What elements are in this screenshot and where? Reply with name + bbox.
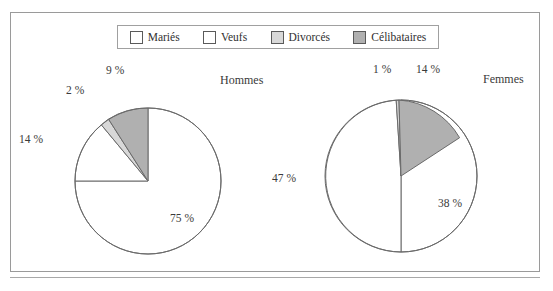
pie-slice-femmes-veufs[interactable]: [326, 100, 401, 252]
pie-title-hommes: Hommes: [220, 74, 263, 86]
pie-label-femmes-celibataires: 14 %: [416, 63, 440, 75]
pie-label-femmes-maries: 38 %: [438, 197, 462, 209]
pie-label-femmes-divorces: 1 %: [373, 63, 391, 75]
pie-charts-canvas: [0, 0, 553, 291]
pie-chart-femmes: [325, 100, 477, 252]
pie-title-femmes: Femmes: [483, 73, 524, 85]
pie-chart-hommes: [75, 108, 221, 254]
pie-label-hommes-celibataires: 9 %: [106, 64, 124, 76]
pie-label-hommes-maries: 75 %: [170, 212, 194, 224]
pie-label-femmes-veufs: 47 %: [272, 172, 296, 184]
pie-label-hommes-divorces: 2 %: [66, 84, 84, 96]
pie-label-hommes-veufs: 14 %: [19, 133, 43, 145]
figure-root: Mariés Veufs Divorcés Célibataires: [0, 0, 553, 291]
